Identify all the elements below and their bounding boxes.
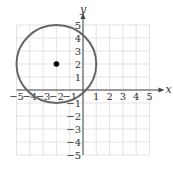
- x-axis-arrow-icon: [159, 88, 165, 93]
- x-axis-label: x: [166, 83, 173, 96]
- y-tick-label: −3: [66, 124, 81, 135]
- y-tick-label: 3: [75, 46, 81, 57]
- y-tick-label: 4: [75, 33, 81, 44]
- x-tick-label: 4: [133, 91, 139, 102]
- y-tick-label: 2: [75, 59, 81, 70]
- y-tick-label: −5: [66, 150, 81, 161]
- y-tick-label: −4: [66, 137, 81, 148]
- point: [54, 61, 60, 67]
- x-tick-label: 1: [93, 91, 99, 102]
- center-point: [54, 61, 60, 67]
- x-tick-label: 3: [120, 91, 126, 102]
- coordinate-plane: −5−4−3−2−11234554321−1−2−3−4−5 x y: [0, 0, 172, 169]
- y-axis-label: y: [79, 3, 87, 16]
- y-tick-label: −2: [66, 111, 81, 122]
- x-tick-label: 2: [106, 91, 112, 102]
- x-tick-label: 5: [146, 91, 152, 102]
- y-tick-label: 1: [75, 72, 81, 83]
